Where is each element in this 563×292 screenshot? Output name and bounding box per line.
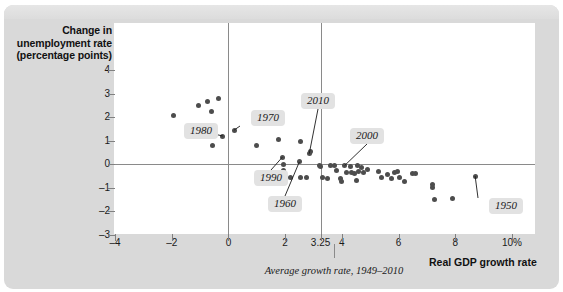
data-point <box>339 179 344 184</box>
x-tick-mark <box>512 234 513 241</box>
data-point <box>432 197 437 202</box>
data-point <box>376 169 381 174</box>
data-point <box>325 176 330 181</box>
x-tick-mark <box>172 234 173 241</box>
average-growth-stem <box>334 244 335 258</box>
data-point <box>354 178 359 183</box>
y-tick-mark <box>108 235 115 236</box>
data-point <box>395 169 400 174</box>
data-point <box>334 168 339 173</box>
data-point <box>205 99 210 104</box>
x-tick-mark <box>455 234 456 241</box>
data-point <box>196 103 201 108</box>
annotation-label-1970: 1970 <box>251 110 285 126</box>
annotation-label-1950: 1950 <box>489 198 523 214</box>
data-point <box>342 163 347 168</box>
reference-line-vertical-3.25 <box>321 23 322 234</box>
y-tick-mark <box>108 70 115 71</box>
x-tick-mark <box>115 234 116 241</box>
data-point <box>308 149 313 154</box>
data-point <box>288 175 293 180</box>
data-point <box>318 164 323 169</box>
data-point <box>298 139 303 144</box>
data-point <box>276 137 281 142</box>
data-point <box>402 179 407 184</box>
y-tick-mark <box>108 188 115 189</box>
data-point <box>216 96 221 101</box>
data-point <box>209 109 214 114</box>
y-tick-mark <box>108 117 115 118</box>
annotation-label-2010: 2010 <box>301 93 335 109</box>
x-tick-mark <box>285 234 286 241</box>
data-point <box>389 176 394 181</box>
data-point <box>280 155 285 160</box>
annotation-label-1990: 1990 <box>254 170 288 186</box>
x-tick-mark <box>321 234 322 241</box>
annotation-label-1960: 1960 <box>268 196 302 212</box>
data-point <box>365 167 370 172</box>
y-tick-mark <box>108 94 115 95</box>
data-point <box>450 196 455 201</box>
data-point <box>298 175 303 180</box>
reference-line-vertical-0 <box>228 23 229 234</box>
x-tick-label-group: –4–2023.2546810% <box>0 237 563 253</box>
reference-line-horizontal-0 <box>114 164 535 165</box>
data-point <box>320 175 325 180</box>
data-point <box>344 170 349 175</box>
data-point <box>413 171 418 176</box>
y-tick-mark <box>108 211 115 212</box>
data-point <box>430 185 435 190</box>
data-point <box>254 143 259 148</box>
annotation-label-2000: 2000 <box>350 128 384 144</box>
y-tick-mark <box>108 164 115 165</box>
y-tick-mark <box>108 141 115 142</box>
x-axis-title: Real GDP growth rate <box>429 256 537 268</box>
average-growth-note: Average growth rate, 1949–2010 <box>265 265 403 276</box>
figure-scatter-okun: Change in unemployment rate (percentage … <box>0 0 563 292</box>
data-point <box>281 162 286 167</box>
data-point <box>348 164 353 169</box>
data-point <box>304 175 309 180</box>
x-tick-mark <box>228 234 229 241</box>
plot-area <box>114 23 535 234</box>
x-tick-mark <box>399 234 400 241</box>
data-point <box>379 175 384 180</box>
data-point <box>220 134 225 139</box>
x-tick-mark <box>342 234 343 241</box>
data-point <box>473 174 478 179</box>
data-point <box>232 128 237 133</box>
data-point <box>171 113 176 118</box>
annotation-label-1980: 1980 <box>184 123 218 139</box>
data-point <box>210 143 215 148</box>
